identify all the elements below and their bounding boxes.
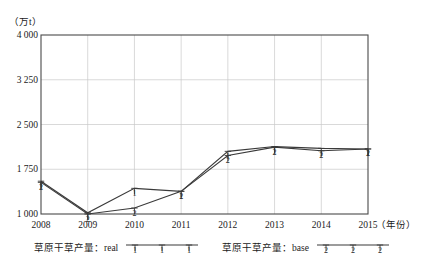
x-axis-tick-label: 2011 [172,220,191,230]
x-axis-tick-label: 2010 [125,220,144,230]
legend-entry-1[interactable]: 草原干草产量：real111 [34,240,199,254]
legend-sample-2: 222 [316,240,390,254]
line-chart: （万t） 1 0001 7502 5003 2504 000 111111112… [0,0,421,268]
marker-label: 1 [132,189,136,198]
svg-text:1: 1 [160,246,164,255]
legend-entry-2[interactable]: 草原干草产量：base222 [222,240,390,254]
marker-label: 2 [226,156,230,165]
marker-label: 2 [366,149,370,158]
x-axis-tick-label: 2012 [218,220,237,230]
marker-label: 2 [179,192,183,201]
legend-label: 草原干草产量：base [222,240,309,254]
x-axis-title: （年份） [376,220,416,230]
svg-text:1: 1 [133,246,137,255]
svg-text:2: 2 [324,246,328,255]
x-axis-tick-label: 2008 [32,220,51,230]
x-axis-tick-label: 2014 [312,220,331,230]
svg-text:2: 2 [378,246,382,255]
x-axis-tick-label: 2015 [359,220,378,230]
x-axis-tick-label: 2009 [78,220,97,230]
svg-text:2: 2 [351,246,355,255]
marker-label: 2 [132,209,136,218]
marker-label: 2 [319,151,323,160]
svg-text:1: 1 [187,246,191,255]
x-axis-tick-label: 2013 [265,220,284,230]
legend-sample-1: 111 [125,240,199,254]
marker-label: 2 [39,183,43,192]
marker-label: 2 [273,148,277,157]
gridlines [41,35,368,214]
chart-legend: 草原干草产量：real111草原干草产量：base222 [0,240,421,262]
legend-label: 草原干草产量：real [34,240,118,254]
